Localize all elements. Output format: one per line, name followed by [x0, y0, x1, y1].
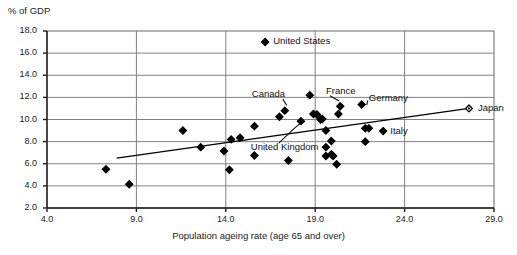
legend-label-united-states: United States	[273, 35, 330, 46]
data-point	[251, 152, 258, 159]
filled-diamond-marker	[333, 161, 340, 168]
data-point	[362, 138, 369, 145]
x-tick-label: 14.0	[206, 214, 246, 224]
filled-diamond-marker	[380, 128, 387, 135]
scatter-plot-canvas	[0, 0, 517, 255]
y-tick-label: 12.0	[7, 91, 37, 101]
y-tick-label: 18.0	[7, 25, 37, 35]
annotation-leader-line	[330, 96, 339, 101]
data-point	[220, 147, 227, 154]
filled-diamond-marker	[251, 152, 258, 159]
filled-diamond-marker	[220, 147, 227, 154]
x-tick-label: 24.0	[385, 214, 425, 224]
data-point	[337, 103, 344, 110]
filled-diamond-marker	[179, 127, 186, 134]
y-tick-label: 4.0	[7, 180, 37, 190]
y-tick-label: 2.0	[7, 202, 37, 212]
filled-diamond-marker	[362, 138, 369, 145]
series-label-japan: Japan	[478, 102, 504, 113]
y-tick-label: 8.0	[7, 136, 37, 146]
filled-diamond-marker	[328, 137, 335, 144]
annotation-leader-line	[283, 99, 287, 105]
data-point	[179, 127, 186, 134]
filled-diamond-marker	[226, 166, 233, 173]
data-point	[358, 101, 365, 108]
series-label-united-kingdom: United Kingdom	[251, 141, 319, 152]
marker-center-dot	[468, 107, 470, 109]
data-point	[285, 157, 292, 164]
series-label-germany: Germany	[369, 92, 408, 103]
x-tick-label: 19.0	[295, 214, 335, 224]
data-point	[102, 166, 109, 173]
filled-diamond-marker	[358, 101, 365, 108]
data-point	[333, 161, 340, 168]
series-label-canada: Canada	[252, 88, 285, 99]
filled-diamond-marker	[251, 123, 258, 130]
data-point	[322, 144, 329, 151]
series-label-italy: Italy	[390, 125, 407, 136]
filled-diamond-marker	[197, 144, 204, 151]
y-tick-label: 10.0	[7, 114, 37, 124]
data-point	[328, 137, 335, 144]
x-tick-label: 9.0	[116, 214, 156, 224]
data-point	[297, 118, 304, 125]
x-tick-label: 29.0	[474, 214, 514, 224]
filled-diamond-marker	[102, 166, 109, 173]
x-tick-label: 4.0	[27, 214, 67, 224]
data-point	[380, 128, 387, 135]
data-point	[281, 107, 288, 114]
filled-diamond-marker	[281, 107, 288, 114]
x-axis-title: Population ageing rate (age 65 and over)	[0, 230, 517, 241]
filled-diamond-marker	[322, 144, 329, 151]
data-point	[226, 166, 233, 173]
filled-diamond-marker	[126, 181, 133, 188]
legend-marker-filled-diamond	[262, 38, 269, 45]
series-label-france: France	[326, 85, 356, 96]
chart-figure: % of GDP Population ageing rate (age 65 …	[0, 0, 517, 255]
filled-diamond-marker	[297, 118, 304, 125]
data-point	[197, 144, 204, 151]
y-tick-label: 16.0	[7, 47, 37, 57]
data-point	[466, 105, 473, 112]
filled-diamond-marker	[285, 157, 292, 164]
filled-diamond-marker	[337, 103, 344, 110]
y-tick-label: 14.0	[7, 69, 37, 79]
data-point	[126, 181, 133, 188]
annotation-leader-line	[367, 101, 368, 106]
data-point	[251, 123, 258, 130]
data-point	[335, 110, 342, 117]
y-tick-label: 6.0	[7, 158, 37, 168]
filled-diamond-marker	[335, 110, 342, 117]
